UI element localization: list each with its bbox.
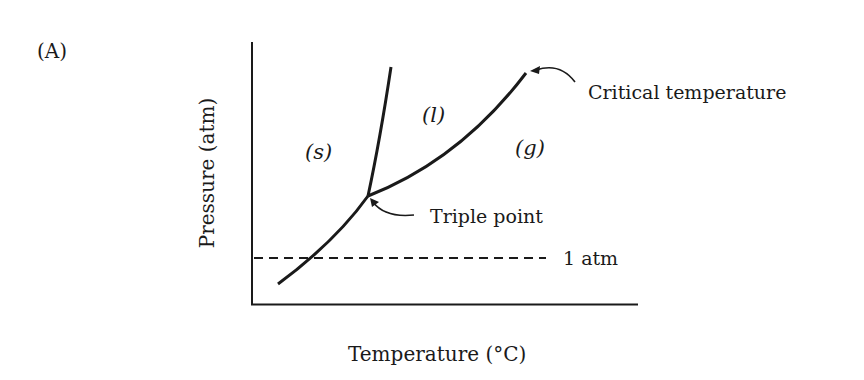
triple-arrowhead-icon — [370, 198, 379, 207]
triple-arrow — [373, 202, 414, 215]
sublimation-curve — [278, 196, 368, 284]
melting-curve — [368, 67, 391, 196]
region-liquid: (l) — [422, 103, 445, 127]
region-gas: (g) — [515, 136, 545, 160]
one-atm-label: 1 atm — [563, 247, 618, 269]
triple-label: Triple point — [430, 205, 543, 227]
vaporization-curve — [368, 73, 526, 196]
y-axis-label: Pressure (atm) — [195, 98, 219, 249]
critical-label: Critical temperature — [588, 81, 786, 103]
region-solid: (s) — [305, 140, 332, 164]
critical-arrowhead-icon — [530, 66, 540, 74]
phase-diagram: (A) (s) (l) (g) Critical temperature Tri… — [0, 0, 864, 380]
x-axis-label: Temperature (°C) — [348, 342, 526, 366]
panel-label: (A) — [37, 39, 67, 63]
critical-arrow — [536, 68, 575, 82]
